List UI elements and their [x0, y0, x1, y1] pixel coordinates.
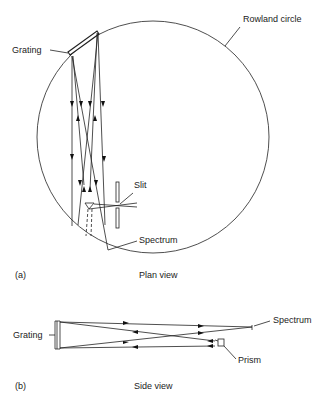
diagram-canvas: [0, 0, 327, 404]
prism-element-plan: [85, 203, 94, 209]
spectrum-label-a: Spectrum: [139, 235, 178, 246]
panel-a-caption: Plan view: [139, 270, 178, 281]
grating-element-side: [57, 321, 60, 349]
prism-leader: [224, 346, 236, 359]
rowland-circle-leader: [225, 27, 240, 46]
grating-label-a: Grating: [12, 45, 42, 56]
panel-a-letter: (a): [15, 270, 26, 281]
grating-leader: [50, 50, 68, 53]
prism-label: Prism: [238, 355, 261, 366]
slit-element: [116, 182, 119, 202]
slit-label: Slit: [134, 180, 147, 191]
rowland-circle-label: Rowland circle: [243, 14, 302, 25]
slit-leader: [120, 193, 133, 204]
spectrum-label-b: Spectrum: [273, 315, 312, 326]
panel-b-caption: Side view: [134, 381, 173, 392]
grating-element: [68, 31, 99, 55]
plan-view-diagram: [37, 21, 269, 253]
grating-label-b: Grating: [13, 330, 43, 341]
side-view-diagram: [49, 321, 270, 359]
panel-b-letter: (b): [15, 381, 26, 392]
spectrum-leader-side: [254, 321, 270, 326]
prism-element-side: [218, 339, 224, 346]
